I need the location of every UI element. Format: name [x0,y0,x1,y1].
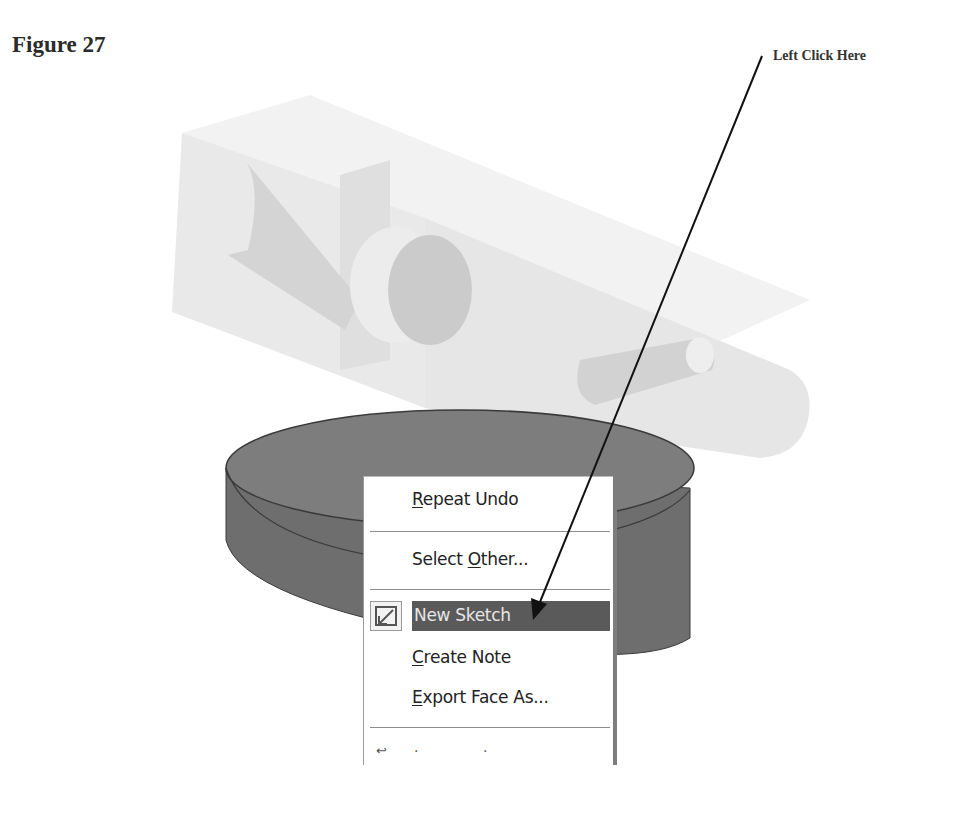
translucent-part-body [172,95,810,458]
menu-separator [370,589,610,590]
menu-item-new-sketch[interactable]: New Sketch [364,601,613,629]
return-arrow-icon: ↩ [376,743,387,758]
menu-item-create-note[interactable]: Create Note [364,643,613,671]
menu-separator [370,531,610,532]
menu-separator [370,727,610,728]
menu-item-repeat-undo[interactable]: Repeat Undo [364,485,613,513]
mnemonic: E [412,687,422,707]
mnemonic: O [468,549,481,569]
new-sketch-icon [370,601,402,631]
context-menu: Repeat Undo Select Other... New Sketch C… [363,476,613,765]
mnemonic: C [412,647,424,667]
mnemonic: R [412,489,423,509]
menu-item-partial[interactable]: ↩ . . [364,739,613,765]
menu-item-export-face-as[interactable]: Export Face As... [364,683,613,711]
menu-item-select-other[interactable]: Select Other... [364,545,613,573]
